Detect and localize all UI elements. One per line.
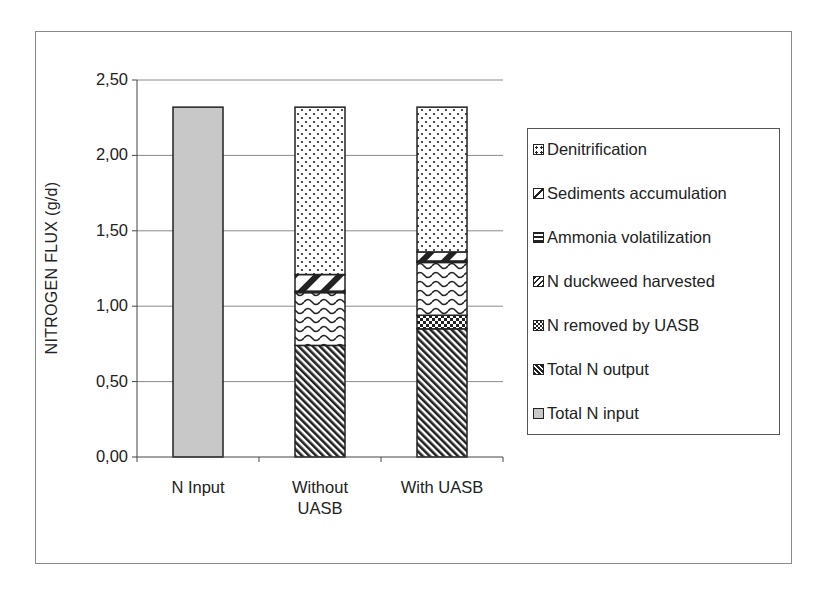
legend-label: N duckweed harvested xyxy=(547,272,715,291)
legend-item-total-n-output: Total N output xyxy=(533,359,649,379)
y-axis-label: NITROGEN FLUX (g/d) xyxy=(43,182,61,355)
bar-segment-n-duckweed-harvested xyxy=(417,262,467,315)
legend-item-total-n-input: Total N input xyxy=(533,403,639,423)
bar-segment-denitrification xyxy=(417,107,467,252)
bar-segment-total-n-input xyxy=(173,107,223,457)
legend-label: Sediments accumulation xyxy=(547,184,727,203)
legend-item-n-duckweed-harvested: N duckweed harvested xyxy=(533,271,715,291)
y-tick-label: 1,00 xyxy=(68,296,128,315)
bar-segment-sediments-accumulation xyxy=(295,275,345,292)
bar-stack-without-uasb xyxy=(295,107,345,457)
y-tick-label: 0,00 xyxy=(68,447,128,466)
legend-swatch-icon xyxy=(533,232,544,243)
x-tick-label: WithoutUASB xyxy=(260,477,380,519)
y-tick-label: 2,50 xyxy=(68,70,128,89)
bar-segment-n-removed-by-uasb xyxy=(417,315,467,329)
bar-segment-n-duckweed-harvested xyxy=(295,293,345,346)
x-tick-label: With UASB xyxy=(382,477,502,498)
bar-stack-n-input xyxy=(173,107,223,457)
bar-segment-denitrification xyxy=(295,107,345,274)
x-tick-label: N Input xyxy=(138,477,258,498)
legend-swatch-icon xyxy=(533,408,544,419)
legend-swatch-icon xyxy=(533,320,544,331)
legend-swatch-icon xyxy=(533,144,544,155)
bar-segment-sediments-accumulation xyxy=(417,252,467,261)
legend-label: Total N input xyxy=(547,404,639,423)
bar-segment-total-n-output xyxy=(295,345,345,457)
legend-item-denitrification: Denitrification xyxy=(533,139,647,159)
bar-segment-total-n-output xyxy=(417,329,467,457)
legend-swatch-icon xyxy=(533,276,544,287)
legend-swatch-icon xyxy=(533,364,544,375)
y-tick-label: 2,00 xyxy=(68,145,128,164)
legend-label: Total N output xyxy=(547,360,649,379)
y-tick-label: 1,50 xyxy=(68,221,128,240)
legend-swatch-icon xyxy=(533,188,544,199)
legend-item-n-removed-by-uasb: N removed by UASB xyxy=(533,315,699,335)
legend-item-sediments-accumulation: Sediments accumulation xyxy=(533,183,727,203)
legend-label: N removed by UASB xyxy=(547,316,699,335)
bar-stack-with-uasb xyxy=(417,107,467,457)
y-tick-label: 0,50 xyxy=(68,372,128,391)
bar-stacks xyxy=(173,107,467,457)
legend: DenitrificationSediments accumulationAmm… xyxy=(527,128,780,435)
legend-item-ammonia-volatilization: Ammonia volatilization xyxy=(533,227,711,247)
legend-label: Ammonia volatilization xyxy=(547,228,711,247)
legend-label: Denitrification xyxy=(547,140,647,159)
